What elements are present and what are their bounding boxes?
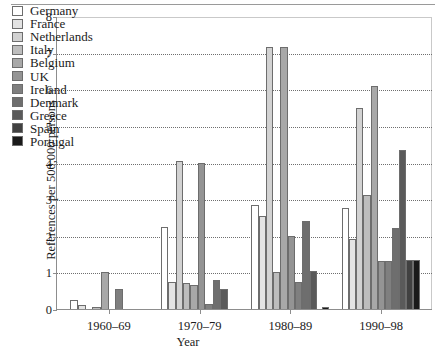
legend-item: Italy — [12, 43, 93, 56]
legend-label: Denmark — [30, 96, 78, 109]
x-tick-mark — [381, 309, 382, 314]
legend-label: UK — [30, 70, 49, 83]
legend-swatch — [12, 97, 23, 107]
bar-ireland — [295, 282, 302, 309]
bar-belgium — [101, 272, 109, 309]
x-axis-label: Year — [176, 335, 199, 350]
bar-france — [78, 305, 86, 309]
bar-belgium — [280, 47, 287, 309]
y-tick-mark — [53, 164, 57, 165]
bar-germany — [161, 227, 168, 309]
x-tick-label: 1960–69 — [87, 319, 131, 334]
bar-group — [251, 17, 329, 309]
y-tick-label: 2 — [46, 229, 52, 244]
y-tick-label: 0 — [46, 303, 52, 318]
y-tick-label: 4 — [46, 156, 52, 171]
legend-swatch — [12, 19, 23, 29]
legend-label: France — [30, 17, 65, 30]
legend-swatch — [12, 32, 23, 42]
bar-germany — [342, 208, 349, 309]
bar-germany — [251, 205, 258, 309]
legend-item: Portugal — [12, 135, 93, 148]
x-tick-label: 1990–98 — [359, 319, 403, 334]
bar-italy — [183, 283, 190, 309]
legend-label: Italy — [30, 43, 54, 56]
bar-group — [342, 17, 420, 309]
bar-ireland — [205, 304, 212, 309]
bar-denmark — [392, 228, 399, 309]
bar-france — [168, 282, 175, 309]
x-tick-label: 1980–89 — [269, 319, 313, 334]
legend-swatch — [12, 110, 23, 120]
plot-area: References per 500,000 persons 012345678… — [56, 17, 432, 310]
legend-swatch — [12, 6, 23, 16]
legend-item: Denmark — [12, 96, 93, 109]
legend-swatch — [12, 71, 23, 81]
legend-swatch — [12, 84, 23, 94]
legend-label: Netherlands — [30, 30, 93, 43]
legend-item: Ireland — [12, 83, 93, 96]
bar-greece — [310, 271, 317, 309]
bar-denmark — [213, 280, 220, 309]
y-tick-mark — [53, 237, 57, 238]
x-tick-label: 1970–79 — [178, 319, 222, 334]
legend-item: Netherlands — [12, 30, 93, 43]
y-tick-mark — [53, 200, 57, 201]
bar-spain — [406, 260, 413, 309]
legend-item: France — [12, 17, 93, 30]
legend-swatch — [12, 136, 23, 146]
x-tick-mark — [200, 309, 201, 314]
bar-france — [259, 216, 266, 309]
legend-item: Greece — [12, 109, 93, 122]
bar-belgium — [190, 285, 197, 309]
bar-uk — [378, 261, 385, 309]
bar-denmark — [302, 221, 309, 309]
bar-belgium — [371, 86, 378, 309]
bar-portugal — [322, 307, 329, 309]
bar-italy — [273, 272, 280, 309]
x-tick-mark — [290, 309, 291, 314]
bar-netherlands — [356, 108, 363, 309]
legend-item: UK — [12, 69, 93, 82]
legend-item: Belgium — [12, 56, 93, 69]
bar-italy — [92, 307, 100, 309]
legend-label: Belgium — [30, 56, 75, 69]
bar-italy — [363, 195, 370, 309]
legend-label: Ireland — [30, 83, 67, 96]
bar-germany — [70, 300, 78, 309]
legend-swatch — [12, 123, 23, 133]
bar-greece — [399, 150, 406, 309]
y-tick-label: 1 — [46, 266, 52, 281]
legend-label: Greece — [30, 109, 67, 122]
bar-ireland — [115, 289, 123, 309]
chart-figure: References per 500,000 persons 012345678… — [0, 0, 442, 358]
legend-item: Germany — [12, 4, 93, 17]
bar-france — [349, 239, 356, 309]
bar-group — [161, 17, 239, 309]
legend-label: Spain — [30, 122, 60, 135]
bar-greece — [220, 289, 227, 309]
chart-legend: GermanyFranceNetherlandsItalyBelgiumUKIr… — [12, 4, 93, 148]
legend-label: Germany — [30, 4, 78, 17]
legend-swatch — [12, 58, 23, 68]
bar-uk — [288, 236, 295, 309]
legend-label: Portugal — [30, 135, 74, 148]
y-tick-mark — [53, 310, 57, 311]
bar-netherlands — [176, 161, 183, 309]
bar-ireland — [385, 261, 392, 309]
y-tick-label: 3 — [46, 193, 52, 208]
legend-swatch — [12, 45, 23, 55]
bar-netherlands — [266, 47, 273, 309]
x-tick-mark — [109, 309, 110, 314]
bar-portugal — [413, 260, 420, 309]
legend-item: Spain — [12, 122, 93, 135]
y-tick-mark — [53, 273, 57, 274]
bar-uk — [198, 163, 205, 310]
